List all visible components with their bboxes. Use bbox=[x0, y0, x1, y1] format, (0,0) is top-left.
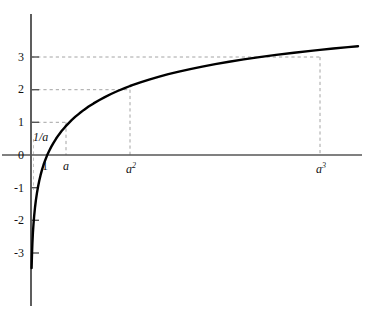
vertical-guide-lines bbox=[34, 57, 321, 190]
y-tick-label-minus-1: -1 bbox=[4, 182, 24, 194]
y-tick-label-minus-3: -3 bbox=[4, 247, 24, 259]
y-tick-label-0: 0 bbox=[8, 149, 24, 161]
x-tick-label-a-cubed: a3 bbox=[312, 160, 330, 175]
logarithm-graph-figure: 3 2 1 0 -1 -2 -3 1/a 1 a a2 a3 bbox=[0, 0, 380, 313]
x-tick-label-a-squared: a2 bbox=[122, 160, 140, 175]
y-tick-label-3: 3 bbox=[8, 51, 24, 63]
y-tick-label-2: 2 bbox=[8, 83, 24, 95]
y-tick-label-1: 1 bbox=[8, 116, 24, 128]
x-tick-label-a-squared-exponent: 2 bbox=[132, 161, 136, 170]
y-tick-label-minus-2: -2 bbox=[4, 214, 24, 226]
x-tick-label-a-cubed-exponent: 3 bbox=[322, 161, 326, 170]
x-tick-label-a: a bbox=[59, 160, 73, 172]
horizontal-guide-lines bbox=[31, 57, 320, 122]
x-tick-label-inverse-a: 1/a bbox=[33, 131, 48, 143]
plot-canvas bbox=[0, 0, 380, 313]
logarithm-curve bbox=[32, 46, 358, 268]
axes bbox=[2, 14, 362, 306]
x-tick-label-1: 1 bbox=[38, 160, 52, 172]
